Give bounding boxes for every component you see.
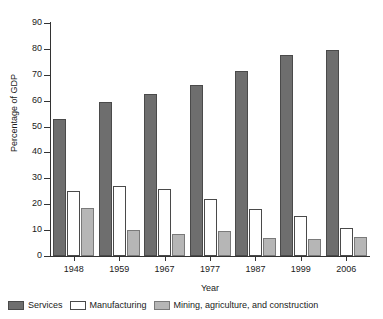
y-axis-tick-label: 50 <box>20 122 42 131</box>
x-axis-tick-label-1967: 1967 <box>140 264 190 274</box>
bar-services-1967 <box>144 94 157 256</box>
bar-services-1999 <box>280 55 293 256</box>
bar-mining-2006 <box>354 237 367 256</box>
y-axis-tick-label: 20 <box>20 199 42 208</box>
bar-services-1959 <box>99 102 112 256</box>
y-axis-tick-label: 10 <box>20 225 42 234</box>
x-axis-tick-label-1999: 1999 <box>276 264 326 274</box>
x-axis-tick <box>165 256 166 261</box>
legend-swatch-services <box>8 301 24 310</box>
x-axis-tick <box>255 256 256 261</box>
x-axis-tick-label-1959: 1959 <box>94 264 144 274</box>
y-axis-tick <box>44 23 50 24</box>
legend-label-mining: Mining, agriculture, and construction <box>174 300 319 310</box>
y-axis-tick-label: 30 <box>20 173 42 182</box>
y-axis-tick <box>44 152 50 153</box>
bar-group <box>326 23 367 256</box>
x-axis-tick <box>210 256 211 261</box>
legend-label-manufacturing: Manufacturing <box>90 300 147 310</box>
chart-legend: ServicesManufacturingMining, agriculture… <box>8 297 378 313</box>
bar-group <box>235 23 276 256</box>
x-axis-tick <box>74 256 75 261</box>
legend-entry-mining: Mining, agriculture, and construction <box>154 300 319 310</box>
bar-manufacturing-1977 <box>204 199 217 256</box>
x-axis-tick-label-1987: 1987 <box>230 264 280 274</box>
legend-entry-manufacturing: Manufacturing <box>70 300 147 310</box>
bar-mining-1967 <box>172 234 185 256</box>
x-axis-tick <box>119 256 120 261</box>
y-axis-tick <box>44 75 50 76</box>
y-axis-tick <box>44 256 50 257</box>
y-axis-tick-label: 90 <box>20 18 42 27</box>
x-axis-tick <box>346 256 347 261</box>
bar-group <box>144 23 185 256</box>
x-axis-tick-label-1948: 1948 <box>49 264 99 274</box>
x-axis-tick <box>301 256 302 261</box>
bar-services-1977 <box>190 85 203 256</box>
bar-group <box>190 23 231 256</box>
legend-swatch-manufacturing <box>70 301 86 310</box>
plot-area <box>51 23 369 256</box>
bar-mining-1999 <box>308 239 321 256</box>
bar-manufacturing-1948 <box>67 191 80 256</box>
bar-mining-1948 <box>81 208 94 256</box>
y-axis-title: Percentage of GDP <box>9 53 19 173</box>
y-axis-tick <box>44 49 50 50</box>
bar-manufacturing-2006 <box>340 228 353 256</box>
bar-services-1987 <box>235 71 248 256</box>
y-axis-tick <box>44 101 50 102</box>
x-axis-tick-label-1977: 1977 <box>185 264 235 274</box>
x-axis-title: Year <box>51 283 369 293</box>
y-axis-tick-label: 60 <box>20 96 42 105</box>
x-axis-tick-label-2006: 2006 <box>321 264 371 274</box>
y-axis-tick <box>44 230 50 231</box>
bar-manufacturing-1959 <box>113 186 126 256</box>
y-axis-tick-label: 40 <box>20 147 42 156</box>
y-axis-tick-labels: 0102030405060708090 <box>16 0 42 319</box>
bar-mining-1987 <box>263 238 276 256</box>
bar-manufacturing-1999 <box>294 216 307 256</box>
y-axis-tick <box>44 178 50 179</box>
bar-services-2006 <box>326 50 339 256</box>
y-axis-tick-label: 0 <box>20 251 42 260</box>
bar-manufacturing-1987 <box>249 209 262 256</box>
legend-entry-services: Services <box>8 300 63 310</box>
bar-group <box>99 23 140 256</box>
bar-manufacturing-1967 <box>158 189 171 256</box>
bar-group <box>53 23 94 256</box>
y-axis-tick <box>44 127 50 128</box>
bar-services-1948 <box>53 119 66 256</box>
y-axis-tick-label: 80 <box>20 44 42 53</box>
bar-mining-1977 <box>218 231 231 256</box>
y-axis-tick-label: 70 <box>20 70 42 79</box>
legend-swatch-mining <box>154 301 170 310</box>
bar-chart-figure: 0102030405060708090 Percentage of GDP 19… <box>0 0 383 319</box>
bar-group <box>280 23 321 256</box>
y-axis-tick <box>44 204 50 205</box>
bar-mining-1959 <box>127 230 140 256</box>
legend-label-services: Services <box>28 300 63 310</box>
